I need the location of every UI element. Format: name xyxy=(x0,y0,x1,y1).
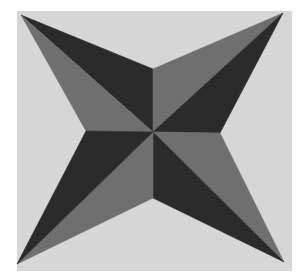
star-quilt-block xyxy=(0,0,301,280)
